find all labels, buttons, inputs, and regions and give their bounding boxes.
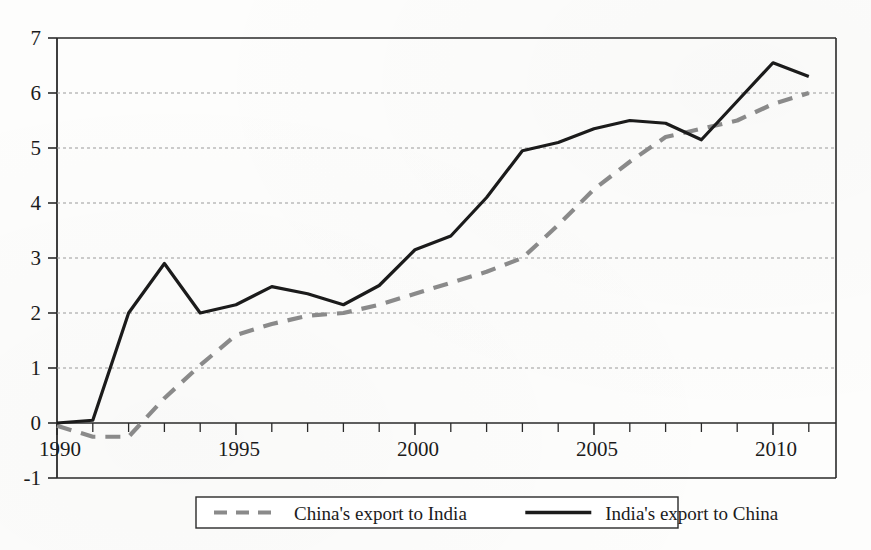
chart-page: 76543210-1 19901995200020052010 China's … — [0, 0, 871, 550]
chart-legend: China's export to IndiaIndia's export to… — [196, 497, 779, 528]
y-tick-label-0: 0 — [31, 411, 42, 435]
legend-label-1: India's export to China — [605, 503, 778, 524]
y-tick-label-3: 3 — [31, 246, 42, 270]
y-tick-label-7: 7 — [31, 26, 42, 50]
y-tick-label--1: -1 — [24, 466, 42, 490]
chart-svg: 76543210-1 19901995200020052010 China's … — [0, 0, 871, 550]
y-tick-label-1: 1 — [31, 356, 42, 380]
x-tick-label-1990: 1990 — [39, 437, 81, 461]
gridlines — [57, 93, 836, 368]
x-tick-label-2000: 2000 — [397, 437, 439, 461]
y-tick-label-6: 6 — [31, 81, 42, 105]
x-tick-label-1995: 1995 — [218, 437, 260, 461]
data-series-layer — [57, 63, 809, 437]
y-tick-label-5: 5 — [31, 136, 42, 160]
series-line-1 — [57, 63, 809, 423]
x-axis: 19901995200020052010 — [39, 423, 809, 461]
legend-label-0: China's export to India — [294, 503, 467, 524]
x-tick-label-2005: 2005 — [576, 437, 618, 461]
x-tick-label-2010: 2010 — [755, 437, 797, 461]
series-line-0 — [57, 93, 809, 437]
line-chart: 76543210-1 19901995200020052010 China's … — [0, 0, 871, 550]
y-tick-label-2: 2 — [31, 301, 42, 325]
y-tick-label-4: 4 — [31, 191, 42, 215]
y-axis: 76543210-1 — [24, 26, 58, 490]
